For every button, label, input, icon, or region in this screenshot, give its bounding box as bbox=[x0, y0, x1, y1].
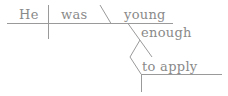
predicate-adjective-slant bbox=[100, 5, 111, 24]
word-subject: He bbox=[19, 8, 39, 21]
word-infinitive: to apply bbox=[142, 60, 197, 73]
infinitive-connector bbox=[130, 40, 141, 74]
word-verb: was bbox=[61, 8, 87, 21]
sentence-diagram: He was young enough to apply bbox=[0, 0, 228, 96]
word-modifier: enough bbox=[141, 26, 192, 39]
word-predicate-adjective: young bbox=[124, 8, 166, 21]
